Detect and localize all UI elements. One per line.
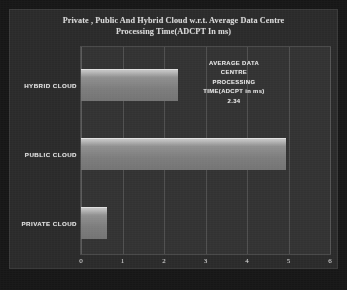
chart-title: Private , Public And Hybrid Cloud w.r.t.… xyxy=(10,16,337,37)
category-label-private-cloud: PRIVATE CLOUD xyxy=(22,220,77,227)
x-tick-6: 6 xyxy=(328,257,332,265)
x-tick-3: 3 xyxy=(204,257,208,265)
bar-row-public-cloud: PUBLIC CLOUD xyxy=(81,133,286,175)
chart-card: Private , Public And Hybrid Cloud w.r.t.… xyxy=(9,9,338,269)
data-label-line-3: PROCESSING xyxy=(186,78,282,87)
category-label-public-cloud: PUBLIC CLOUD xyxy=(25,151,77,158)
data-label-line-4: TIME(ADCPT in ms) xyxy=(186,87,282,96)
x-tick-0: 0 xyxy=(79,257,83,265)
x-tick-5: 5 xyxy=(287,257,291,265)
gridline-5 xyxy=(289,47,290,254)
x-tick-1: 1 xyxy=(121,257,125,265)
x-axis-tick-labels: 0 1 2 3 4 5 6 xyxy=(81,254,330,270)
bar-public-cloud xyxy=(81,138,286,170)
data-label-line-1: AVERAGE DATA xyxy=(186,59,282,68)
chart-title-line-2: Processing Time(ADCPT In ms) xyxy=(10,27,337,38)
x-tick-2: 2 xyxy=(162,257,166,265)
plot-area: HYBRID CLOUD PUBLIC CLOUD PRIVATE CLOUD … xyxy=(80,46,331,255)
data-label-block: AVERAGE DATA CENTRE PROCESSING TIME(ADCP… xyxy=(186,59,282,106)
gridline-6 xyxy=(330,47,331,254)
data-label-value: 2.34 xyxy=(186,97,282,106)
bar-hybrid-cloud xyxy=(81,69,178,101)
chart-title-line-1: Private , Public And Hybrid Cloud w.r.t.… xyxy=(10,16,337,27)
category-label-hybrid-cloud: HYBRID CLOUD xyxy=(24,82,77,89)
bar-row-private-cloud: PRIVATE CLOUD xyxy=(81,202,107,244)
x-tick-4: 4 xyxy=(245,257,249,265)
bar-private-cloud xyxy=(81,207,107,239)
chart-screenshot: Private , Public And Hybrid Cloud w.r.t.… xyxy=(0,0,347,290)
bar-row-hybrid-cloud: HYBRID CLOUD xyxy=(81,64,178,106)
data-label-line-2: CENTRE xyxy=(186,68,282,77)
